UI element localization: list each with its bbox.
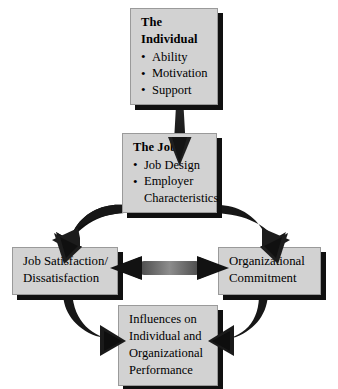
flow-diagram: The Individual •Ability •Motivation •Sup… xyxy=(0,0,338,389)
arrowhead-into-organizational-commitment xyxy=(260,233,288,264)
arrowhead-into-job-satisfaction xyxy=(54,233,82,264)
arrowhead-left-link xyxy=(110,256,142,280)
arrow-layer-front xyxy=(0,0,338,389)
arrowhead-into-job xyxy=(168,137,192,166)
arrowhead-into-influences-right xyxy=(208,325,234,356)
arrowhead-right-link xyxy=(197,256,229,280)
arrowhead-into-influences-left xyxy=(100,325,126,356)
